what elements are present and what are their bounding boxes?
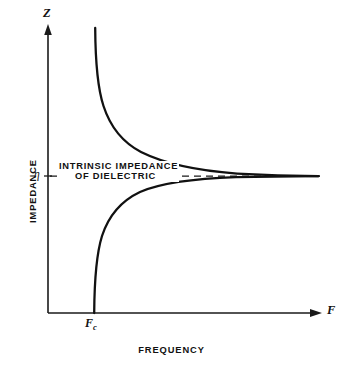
fc-subscript: c [93,322,97,332]
upper-branch-curve [95,28,318,176]
cutoff-frequency-tick-label: Fc [85,317,97,332]
intrinsic-impedance-annotation: INTRINSIC IMPEDANCEOF DIELECTRIC [58,161,179,182]
y-axis-arrowhead-icon [44,24,52,35]
lower-branch-curve [94,176,318,313]
y-axis-symbol-label: Z [43,6,51,20]
y-axis-title: IMPEDANCE [28,136,38,246]
y-axis [44,24,52,313]
x-axis-arrowhead-icon [310,309,322,317]
x-axis-title: FREQUENCY [0,345,343,355]
fc-base: F [85,316,93,330]
annotation-line-1: INTRINSIC IMPEDANCE [59,161,178,171]
x-axis-symbol-label: F [327,303,335,317]
chart-plot-area [0,0,343,372]
annotation-line-2: OF DIELECTRIC [59,171,178,181]
impedance-vs-frequency-figure: Z F η Fc IMPEDANCE FREQUENCY INTRINSIC I… [0,0,343,372]
